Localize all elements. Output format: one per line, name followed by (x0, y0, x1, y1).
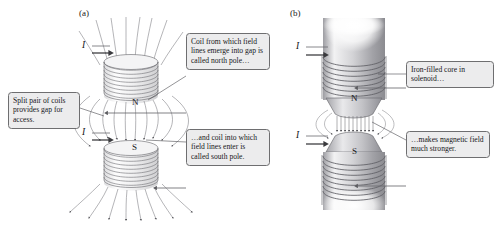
top-coil-a (104, 55, 158, 104)
pole-label-a-south: S (132, 142, 137, 152)
current-label-b-top: I (296, 41, 299, 51)
callout-split-pair: Split pair of coils provides gap for acc… (8, 92, 80, 129)
callout-stronger-field: …makes magnetic field much stronger. (406, 131, 490, 158)
pole-label-b-south: S (352, 146, 357, 156)
panel-label-b: (b) (290, 8, 301, 18)
current-label-b-bottom: I (296, 130, 299, 140)
pole-label-b-north: N (351, 93, 358, 103)
current-label-a-bottom: I (82, 127, 85, 137)
callout-coil-north-pole: Coil from which field lines emerge into … (186, 33, 270, 70)
bottom-coil-a (104, 141, 158, 191)
pole-label-a-north: N (132, 97, 139, 107)
current-label-a-top: I (82, 40, 85, 50)
panel-label-a: (a) (79, 8, 89, 18)
callout-coil-south-pole: …and coil into which field lines enter i… (186, 129, 270, 166)
callout-iron-core: Iron-filled core in solenoid… (406, 61, 494, 88)
